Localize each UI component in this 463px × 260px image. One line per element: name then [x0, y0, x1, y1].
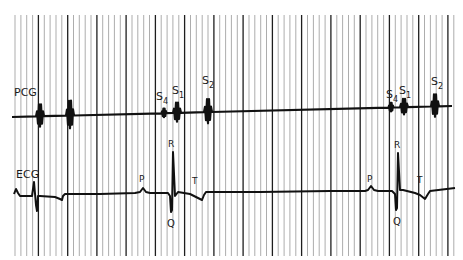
svg-text:2: 2 — [209, 81, 214, 90]
svg-text:S: S — [399, 84, 406, 97]
chart-grid — [15, 15, 454, 256]
q-wave-label-beat2: Q — [393, 216, 401, 227]
svg-text:S: S — [156, 90, 163, 103]
svg-text:4: 4 — [163, 97, 168, 106]
s4-label-beat1: S 4 — [156, 90, 168, 106]
svg-text:1: 1 — [406, 91, 411, 100]
pcg-label: PCG — [14, 86, 37, 99]
s4-label-beat2: S 4 — [386, 88, 398, 104]
t-wave-label-beat2: T — [416, 175, 423, 185]
svg-text:S: S — [172, 84, 179, 97]
p-wave-label-beat1: P — [139, 174, 145, 184]
svg-text:2: 2 — [438, 82, 443, 91]
q-wave-label-beat1: Q — [167, 218, 175, 229]
r-wave-label-beat1: R — [168, 139, 174, 149]
ecg-label: ECG — [16, 168, 39, 181]
svg-text:S: S — [431, 75, 438, 88]
s1-label-beat1: S 1 — [172, 84, 184, 100]
p-wave-label-beat2: P — [367, 174, 373, 184]
r-wave-label-beat2: R — [394, 140, 400, 150]
svg-text:S: S — [386, 88, 393, 101]
t-wave-label-beat1: T — [191, 176, 198, 186]
pcg-ecg-chart: PCG ECG S 4 S 1 S 2 S 4 S 1 S 2 P R Q T … — [0, 0, 463, 260]
s2-label-beat2: S 2 — [431, 75, 443, 91]
svg-text:S: S — [202, 74, 209, 87]
svg-text:1: 1 — [179, 91, 184, 100]
svg-text:4: 4 — [393, 95, 398, 104]
s2-label-beat1: S 2 — [202, 74, 214, 90]
